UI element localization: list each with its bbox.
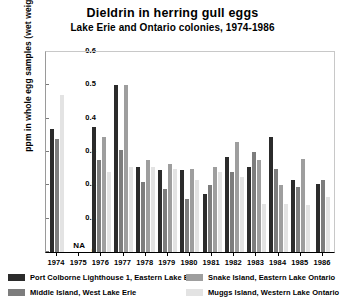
na-annotation: NA — [73, 241, 85, 250]
bar — [141, 182, 145, 252]
bar — [291, 180, 295, 252]
bar — [173, 169, 177, 252]
bar — [262, 204, 266, 252]
legend-entry-middle-island[interactable]: Middle Island, West Lake Erie — [8, 287, 136, 298]
bar — [151, 167, 155, 252]
bar — [180, 170, 184, 252]
x-tick-mark — [78, 252, 79, 256]
bar-group — [179, 52, 201, 252]
legend-label: Snake Island, Eastern Lake Ontario — [208, 273, 335, 282]
bar — [107, 172, 111, 252]
legend-entry-snake-island[interactable]: Snake Island, Eastern Lake Ontario — [186, 272, 335, 283]
legend-swatch-icon — [8, 274, 25, 281]
bar — [185, 199, 189, 252]
legend-swatch-icon — [186, 289, 203, 296]
bar-group — [245, 52, 267, 252]
x-tick-mark — [278, 252, 279, 256]
bar — [235, 142, 239, 252]
bar — [124, 85, 128, 252]
bar-group — [268, 52, 290, 252]
bar — [119, 150, 123, 252]
legend-label: Port Colborne Lighthouse 1, Eastern Lake… — [30, 273, 198, 282]
bar — [218, 172, 222, 252]
bar-group — [112, 52, 134, 252]
legend-entry-port-colborne[interactable]: Port Colborne Lighthouse 1, Eastern Lake… — [8, 272, 198, 283]
bar-group — [290, 52, 312, 252]
bar — [190, 169, 194, 252]
x-tick-mark — [255, 252, 256, 256]
bar-group — [90, 52, 112, 252]
bar — [163, 189, 167, 252]
bar — [203, 194, 207, 252]
bar — [274, 169, 278, 252]
x-tick-mark — [211, 252, 212, 256]
x-tick-mark — [189, 252, 190, 256]
bar — [146, 160, 150, 252]
x-tick-mark — [56, 252, 57, 256]
bar — [129, 167, 133, 252]
chart-subtitle: Lake Erie and Ontario colonies, 1974-198… — [0, 21, 345, 34]
bar-group — [223, 52, 245, 252]
legend-swatch-icon — [186, 274, 203, 281]
bars-layer: NA — [46, 52, 334, 252]
bar — [168, 164, 172, 252]
bar — [230, 172, 234, 252]
x-tick-mark — [233, 252, 234, 256]
bar — [326, 197, 330, 252]
y-axis-label: ppm in whole egg samples (wet weight) — [23, 0, 37, 170]
bar — [301, 159, 305, 252]
bar — [60, 95, 64, 252]
chart-title-block: Dieldrin in herring gull eggs Lake Erie … — [0, 6, 345, 34]
bar — [213, 167, 217, 252]
bar-group — [135, 52, 157, 252]
bar — [284, 204, 288, 252]
bar — [97, 160, 101, 252]
bar — [195, 180, 199, 252]
bar — [50, 129, 54, 252]
bar — [252, 152, 256, 252]
bar-group — [201, 52, 223, 252]
legend-swatch-icon — [8, 289, 25, 296]
bar — [247, 167, 251, 252]
plot-area: NA — [45, 51, 335, 253]
x-tick-label: 1986 — [307, 258, 337, 267]
x-tick-mark — [100, 252, 101, 256]
bar — [102, 137, 106, 252]
bar — [208, 185, 212, 252]
x-tick-mark — [145, 252, 146, 256]
bar — [316, 184, 320, 252]
bar — [269, 137, 273, 252]
bar-group: NA — [68, 52, 90, 252]
bar — [55, 139, 59, 252]
x-tick-mark — [322, 252, 323, 256]
bar — [158, 170, 162, 252]
bar — [114, 85, 118, 252]
x-tick-mark — [300, 252, 301, 256]
bar — [279, 185, 283, 252]
legend-entry-muggs-island[interactable]: Muggs Island, Western Lake Ontario — [186, 287, 339, 298]
bar-group — [46, 52, 68, 252]
chart-title: Dieldrin in herring gull eggs — [0, 6, 345, 21]
bar-group — [312, 52, 334, 252]
bar-group — [157, 52, 179, 252]
bar — [321, 180, 325, 252]
bar — [296, 187, 300, 252]
legend-label: Middle Island, West Lake Erie — [30, 288, 136, 297]
bar — [240, 177, 244, 252]
x-tick-mark — [167, 252, 168, 256]
bar — [136, 167, 140, 252]
bar — [257, 160, 261, 252]
chart-legend: Port Colborne Lighthouse 1, Eastern Lake… — [8, 272, 345, 302]
bar — [225, 157, 229, 252]
bar — [306, 205, 310, 252]
bar — [92, 127, 96, 252]
legend-label: Muggs Island, Western Lake Ontario — [208, 288, 339, 297]
x-tick-mark — [123, 252, 124, 256]
